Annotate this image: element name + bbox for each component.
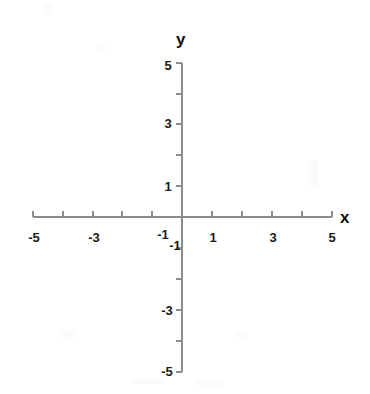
x-axis-label: x	[340, 209, 349, 226]
x-tick-label-1: 1	[209, 231, 216, 244]
x-tick-label-minus3: -3	[88, 231, 100, 244]
y-tick-label-1: 1	[164, 180, 171, 193]
y-tick-label-5: 5	[164, 59, 171, 72]
y-axis-label: y	[176, 31, 185, 48]
y-tick-label-minus3: -3	[161, 304, 173, 317]
x-tick-label-minus5: -5	[28, 231, 40, 244]
x-tick-label-3: 3	[269, 231, 276, 244]
y-tick-label-3: 3	[164, 117, 171, 130]
y-tick-label-minus5: -5	[161, 365, 173, 378]
coordinate-plane-figure: y x -5 -3 -1 1 3 5 5 3 1 -1 -3 -5	[0, 0, 370, 394]
x-tick-label-minus1: -1	[157, 228, 169, 241]
y-tick-label-minus1: -1	[169, 239, 181, 252]
x-tick-label-5: 5	[328, 231, 335, 244]
axes-drawing	[0, 0, 370, 394]
